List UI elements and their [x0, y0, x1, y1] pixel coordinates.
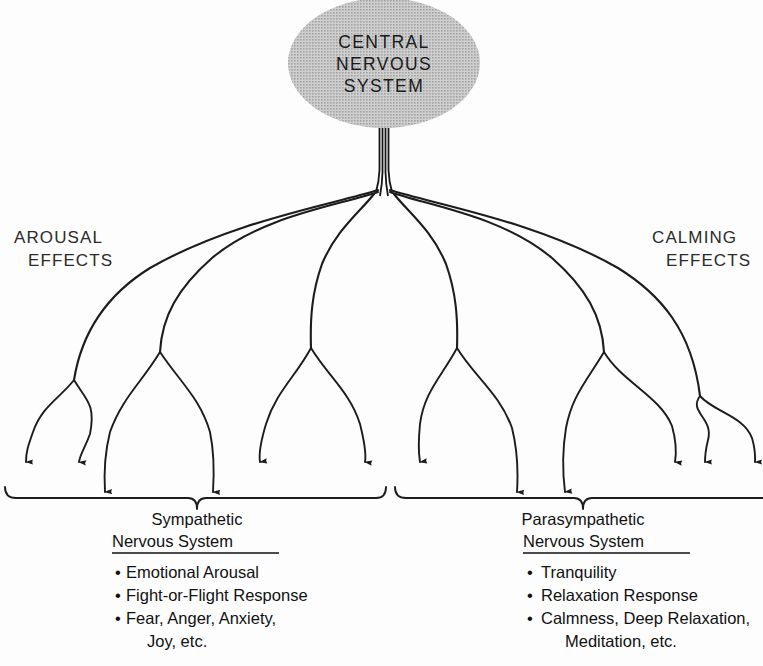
parasympathetic-bullet-0: •: [527, 563, 533, 581]
sympathetic-bullet-1: •: [115, 586, 121, 604]
parasympathetic-twig-2b: [604, 352, 676, 462]
parasympathetic-bullet-1: •: [527, 586, 533, 604]
sympathetic-item-2: Fear, Anger, Anxiety,: [126, 609, 276, 627]
central-nervous-system-node: CENTRAL NERVOUS SYSTEM: [288, 0, 480, 128]
parasympathetic-brace: [395, 487, 763, 509]
sympathetic-branch-1: [74, 190, 378, 380]
parasympathetic-twig-2a: [563, 352, 604, 492]
nervous-system-diagram: CENTRAL NERVOUS SYSTEM: [0, 0, 763, 666]
sympathetic-bullet-0: •: [115, 563, 121, 581]
arousal-effects-line2: EFFECTS: [28, 251, 113, 270]
sympathetic-twig-3a: [260, 348, 311, 462]
calming-effects-label: CALMING EFFECTS: [652, 228, 751, 270]
parasympathetic-title-line2: Nervous System: [523, 532, 644, 550]
parasympathetic-title-line1: Parasympathetic: [522, 510, 645, 528]
parasympathetic-twig-3a: [697, 396, 709, 462]
parasympathetic-item-1: Relaxation Response: [541, 586, 698, 604]
sympathetic-brace: [5, 487, 386, 509]
parasympathetic-branch-3: [390, 190, 700, 396]
parasympathetic-twig-1b: [457, 348, 517, 492]
cns-label-line3: SYSTEM: [344, 76, 424, 96]
sympathetic-item-1: Fight-or-Flight Response: [126, 586, 308, 604]
sympathetic-title-line2: Nervous System: [112, 532, 233, 550]
sympathetic-branch-3: [311, 194, 374, 348]
parasympathetic-bullet-2: •: [527, 609, 533, 627]
arousal-effects-label: AROUSAL EFFECTS: [14, 228, 113, 270]
arousal-effects-line1: AROUSAL: [14, 228, 103, 247]
sympathetic-text-block: Sympathetic Nervous System • Emotional A…: [112, 510, 308, 650]
parasympathetic-text-block: Parasympathetic Nervous System • Tranqui…: [522, 510, 751, 650]
parasympathetic-branch-2: [390, 192, 604, 352]
sympathetic-twig-1a: [26, 380, 74, 462]
parasympathetic-twig-1a: [419, 348, 457, 462]
sympathetic-twig-2a: [105, 352, 160, 492]
sympathetic-bullet-2: •: [115, 609, 121, 627]
cns-label-line1: CENTRAL: [338, 32, 429, 52]
parasympathetic-item-2: Calmness, Deep Relaxation,: [541, 609, 750, 627]
sympathetic-branch-2: [160, 192, 378, 352]
parasympathetic-branch-1: [394, 194, 457, 348]
sympathetic-twig-3b: [311, 348, 365, 462]
nerve-trunk-bundle: [376, 128, 392, 196]
parasympathetic-item-0: Tranquility: [541, 563, 617, 581]
sympathetic-item-3: Joy, etc.: [147, 632, 207, 650]
calming-effects-line2: EFFECTS: [666, 251, 751, 270]
cns-label-line2: NERVOUS: [336, 54, 432, 74]
parasympathetic-item-3: Meditation, etc.: [565, 632, 677, 650]
sympathetic-title-line1: Sympathetic: [152, 510, 243, 528]
sympathetic-twig-2b: [160, 352, 214, 492]
calming-effects-line1: CALMING: [652, 228, 737, 247]
diagram-canvas: CENTRAL NERVOUS SYSTEM: [0, 0, 763, 666]
sympathetic-item-0: Emotional Arousal: [126, 563, 259, 581]
sympathetic-twig-1b: [74, 380, 92, 462]
